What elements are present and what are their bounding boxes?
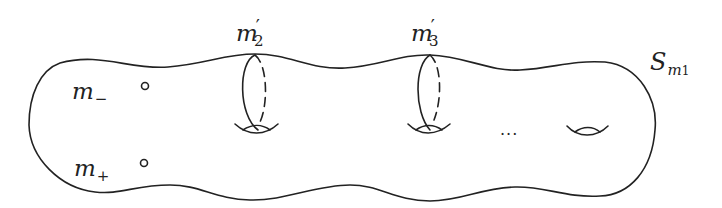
surface-outline xyxy=(29,54,655,201)
curve-m2-front xyxy=(243,55,258,130)
curve-m3-front xyxy=(418,55,430,130)
label-surface-sub-index: 1 xyxy=(682,64,690,78)
label-m-minus: m− xyxy=(72,80,107,103)
label-m-plus-base: m xyxy=(74,155,96,181)
label-m-minus-sub: − xyxy=(95,90,108,108)
label-m3-prime: m′3 xyxy=(411,22,438,45)
curve-m2-back xyxy=(255,55,265,122)
label-m2-prime: m′2 xyxy=(236,22,263,45)
curve-m3-back xyxy=(430,55,440,120)
surface-diagram: m′2 m′3 Sm1 m− m+ ... xyxy=(0,0,722,208)
label-surface-sub-base: m xyxy=(667,61,681,79)
handle-3-lower xyxy=(575,128,600,133)
point-plus-marker xyxy=(141,160,148,167)
label-surface-base: S xyxy=(650,48,666,76)
label-surface: Sm1 xyxy=(650,50,689,74)
label-m-plus: m+ xyxy=(74,157,109,180)
label-m-minus-base: m xyxy=(72,78,94,104)
label-m3-sub: 3 xyxy=(429,32,439,50)
ellipsis: ... xyxy=(500,120,518,139)
label-m-plus-sub: + xyxy=(97,167,110,185)
label-m2-sub: 2 xyxy=(254,32,264,50)
point-minus-marker xyxy=(142,83,149,90)
